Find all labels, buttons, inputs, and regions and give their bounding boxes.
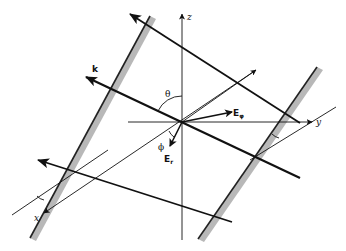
- y-label: y: [315, 117, 322, 127]
- thin-line-left: [12, 150, 108, 215]
- theta-label: θ: [165, 89, 170, 99]
- angle-arc-left: [37, 196, 44, 200]
- x-label: x: [34, 213, 39, 223]
- wave-diagram: z y x k θ ϕ Eφ Er: [0, 0, 346, 251]
- incident-ray-upper: [130, 14, 300, 123]
- k-label: k: [92, 64, 99, 74]
- right-interface-plate: [198, 67, 323, 242]
- left-interface-plate: [30, 16, 156, 241]
- e-perp-label: Er: [164, 154, 173, 165]
- z-label: z: [186, 12, 192, 22]
- e-parallel-label: Eφ: [233, 108, 244, 120]
- e-perp-vector: [170, 122, 182, 146]
- phi-label: ϕ: [158, 142, 164, 152]
- phi-arc: [169, 131, 174, 137]
- thin-line-right: [250, 107, 336, 160]
- incident-ray-lower: [38, 160, 232, 222]
